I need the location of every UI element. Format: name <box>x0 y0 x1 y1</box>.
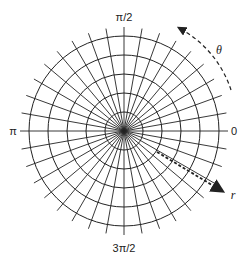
angle-spokes <box>20 27 228 235</box>
label-half-pi: π/2 <box>116 11 133 23</box>
r-arrow <box>157 152 222 191</box>
label-zero: 0 <box>231 125 237 137</box>
label-pi: π <box>9 125 17 137</box>
polar-grid-diagram <box>0 0 250 262</box>
label-three-half-pi: 3π/2 <box>113 242 136 254</box>
label-r: r <box>231 188 236 203</box>
label-theta: θ <box>216 43 222 58</box>
